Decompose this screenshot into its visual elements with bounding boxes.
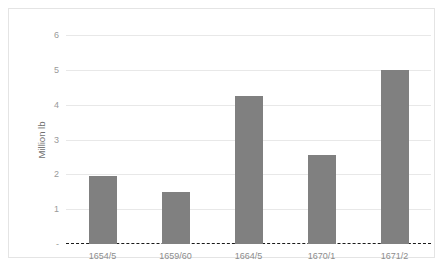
bar-1670-1[interactable] bbox=[308, 155, 336, 244]
bar-1671-2[interactable] bbox=[381, 70, 409, 244]
y-axis-tick-label: 1 bbox=[54, 205, 59, 214]
y-axis-title: Million lb bbox=[37, 122, 47, 159]
chart-frame: Million lb -123456 1654/51659/601664/516… bbox=[8, 8, 435, 258]
bar-1659-60[interactable] bbox=[162, 192, 190, 244]
y-axis-tick-label: 3 bbox=[54, 135, 59, 144]
y-axis-tick-label: 5 bbox=[54, 65, 59, 74]
x-axis-category-label: 1654/5 bbox=[89, 252, 117, 261]
y-axis-tick-label: 4 bbox=[54, 100, 59, 109]
gridline bbox=[66, 35, 431, 36]
x-axis-category-label: 1670/1 bbox=[308, 252, 336, 261]
y-axis-tick-label: - bbox=[56, 240, 59, 249]
gridline bbox=[66, 70, 431, 71]
y-axis-tick-label: 2 bbox=[54, 170, 59, 179]
x-axis-category-label: 1671/2 bbox=[381, 252, 409, 261]
x-axis-category-label: 1659/60 bbox=[159, 252, 192, 261]
y-axis-tick-label: 6 bbox=[54, 31, 59, 40]
x-axis-category-label: 1664/5 bbox=[235, 252, 263, 261]
bar-1664-5[interactable] bbox=[235, 96, 263, 244]
plot-area: -123456 bbox=[66, 35, 431, 244]
bar-1654-5[interactable] bbox=[89, 176, 117, 244]
chart-screenshot: Million lb -123456 1654/51659/601664/516… bbox=[0, 0, 443, 270]
